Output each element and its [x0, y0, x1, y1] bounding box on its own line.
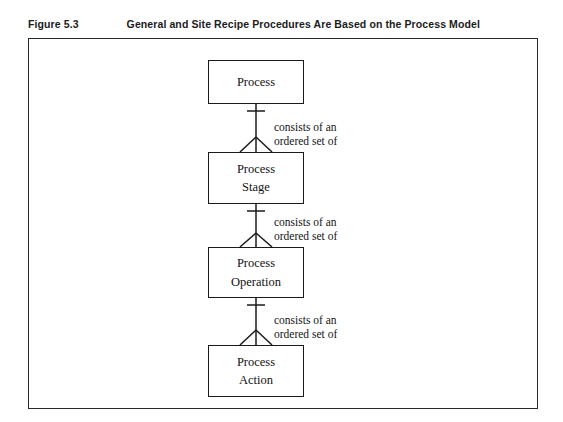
entity-label-line2: Stage	[242, 178, 270, 196]
relationship-label-line1: consists of an	[274, 313, 337, 327]
entity-box-process-operation[interactable]: Process Operation	[208, 247, 304, 298]
entity-box-process-action[interactable]: Process Action	[208, 345, 304, 397]
entity-label-line1: Process	[237, 254, 275, 272]
figure-page: Figure 5.3 General and Site Recipe Proce…	[0, 0, 563, 422]
entity-label-line2: Action	[239, 371, 273, 389]
figure-title: General and Site Recipe Procedures Are B…	[127, 18, 480, 30]
relationship-label-line1: consists of an	[274, 215, 337, 229]
relationship-label-1: consists of an ordered set of	[274, 120, 337, 149]
entity-label-line1: Process	[237, 73, 275, 91]
relationship-label-line2: ordered set of	[274, 327, 337, 341]
entity-label-line1: Process	[237, 353, 275, 371]
entity-box-process-stage[interactable]: Process Stage	[208, 152, 304, 204]
entity-label-line1: Process	[237, 160, 275, 178]
entity-box-process[interactable]: Process	[208, 60, 304, 104]
relationship-label-line2: ordered set of	[274, 229, 337, 243]
entity-label-line2: Operation	[231, 273, 281, 291]
relationship-label-line2: ordered set of	[274, 134, 337, 148]
relationship-label-line1: consists of an	[274, 120, 337, 134]
relationship-label-2: consists of an ordered set of	[274, 215, 337, 244]
figure-number: Figure 5.3	[28, 18, 79, 30]
figure-caption: Figure 5.3 General and Site Recipe Proce…	[28, 17, 480, 31]
relationship-label-3: consists of an ordered set of	[274, 313, 337, 342]
